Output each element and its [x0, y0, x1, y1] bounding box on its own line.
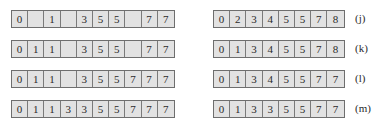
array-cell: 7 — [125, 71, 141, 87]
array-cell: 0 — [214, 11, 230, 27]
array-cell: 7 — [158, 71, 174, 87]
array-cell: 1 — [44, 101, 60, 117]
array-cell: 5 — [93, 101, 109, 117]
array-cell: 7 — [311, 71, 327, 87]
label-j: (j) — [355, 12, 365, 24]
array-cell: 3 — [246, 71, 262, 87]
array-cell: 3 — [77, 71, 93, 87]
array-cell: 0 — [214, 71, 230, 87]
right-array-k: 0 1 3 4 5 5 7 8 — [213, 40, 345, 58]
array-cell: 4 — [263, 71, 279, 87]
left-array-1: 0 1 1 3 5 5 7 7 — [11, 40, 175, 58]
label-m: (m) — [355, 102, 371, 114]
array-cell: 3 — [246, 41, 262, 57]
left-array-0: 0 1 3 5 5 7 7 — [11, 10, 175, 28]
array-cell: 1 — [44, 11, 60, 27]
array-cell: 4 — [263, 41, 279, 57]
array-cell: 7 — [311, 101, 327, 117]
array-cell: 5 — [295, 41, 311, 57]
array-cell: 3 — [61, 101, 77, 117]
array-cell: 7 — [142, 101, 158, 117]
right-array-m: 0 1 3 3 5 5 7 7 — [213, 100, 345, 118]
array-cell: 3 — [77, 101, 93, 117]
array-cell: 3 — [246, 11, 262, 27]
array-cell — [125, 41, 141, 57]
array-cell: 7 — [142, 41, 158, 57]
array-cell — [28, 11, 44, 27]
array-cell: 5 — [109, 41, 125, 57]
array-cell: 1 — [44, 41, 60, 57]
array-cell: 1 — [44, 71, 60, 87]
array-cell: 3 — [77, 11, 93, 27]
array-cell: 7 — [158, 101, 174, 117]
array-cell: 1 — [28, 41, 44, 57]
array-cell: 5 — [93, 71, 109, 87]
left-array-3: 0 1 1 3 3 5 5 7 7 7 — [11, 100, 175, 118]
array-cell: 7 — [142, 71, 158, 87]
array-cell: 7 — [327, 71, 343, 87]
label-k: (k) — [355, 42, 368, 54]
array-cell: 8 — [327, 11, 343, 27]
array-cell: 5 — [109, 11, 125, 27]
array-cell: 0 — [214, 41, 230, 57]
array-cell: 0 — [12, 71, 28, 87]
array-cell: 5 — [93, 11, 109, 27]
array-cell: 5 — [295, 11, 311, 27]
array-cell: 5 — [295, 101, 311, 117]
array-cell — [125, 11, 141, 27]
array-cell: 5 — [109, 101, 125, 117]
array-cell: 4 — [263, 11, 279, 27]
array-cell: 1 — [28, 71, 44, 87]
right-array-l: 0 1 3 4 5 5 7 7 — [213, 70, 345, 88]
array-cell: 1 — [230, 41, 246, 57]
array-cell: 2 — [230, 11, 246, 27]
array-cell: 0 — [12, 101, 28, 117]
array-cell — [61, 41, 77, 57]
array-cell: 0 — [214, 101, 230, 117]
array-cell — [61, 71, 77, 87]
array-cell: 1 — [28, 101, 44, 117]
array-cell: 5 — [295, 71, 311, 87]
array-cell: 3 — [246, 101, 262, 117]
right-array-j: 0 2 3 4 5 5 7 8 — [213, 10, 345, 28]
array-cell: 0 — [12, 11, 28, 27]
array-cell: 0 — [12, 41, 28, 57]
array-cell: 7 — [311, 41, 327, 57]
array-cell: 8 — [327, 41, 343, 57]
array-cell: 1 — [230, 71, 246, 87]
array-cell: 5 — [279, 11, 295, 27]
array-cell: 3 — [263, 101, 279, 117]
left-array-2: 0 1 1 3 5 5 7 7 7 — [11, 70, 175, 88]
array-cell: 5 — [279, 101, 295, 117]
array-cell: 7 — [327, 101, 343, 117]
array-cell: 7 — [158, 11, 174, 27]
array-cell: 5 — [279, 41, 295, 57]
array-cell: 1 — [230, 101, 246, 117]
array-cell: 7 — [311, 11, 327, 27]
array-cell: 5 — [109, 71, 125, 87]
array-cell: 7 — [125, 101, 141, 117]
array-cell: 3 — [77, 41, 93, 57]
label-l: (l) — [355, 72, 365, 84]
array-cell: 7 — [158, 41, 174, 57]
array-cell — [61, 11, 77, 27]
array-cell: 5 — [93, 41, 109, 57]
array-cell: 5 — [279, 71, 295, 87]
array-cell: 7 — [142, 11, 158, 27]
